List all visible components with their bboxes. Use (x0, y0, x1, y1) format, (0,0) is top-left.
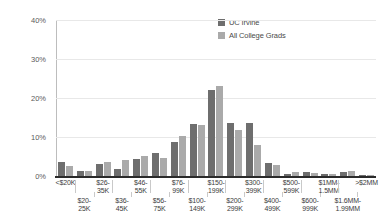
x-tick-label: $1MM-1.5MM (311, 179, 347, 195)
y-tick-label: 30% (10, 55, 46, 64)
bar-group (338, 20, 357, 176)
bar-group (188, 20, 207, 176)
bar-group (207, 20, 226, 176)
x-tick-label: $200-299K (217, 197, 253, 213)
bar-uc-irvine (265, 163, 272, 176)
x-tick-label: $20-25K (66, 197, 102, 213)
x-tick-label: $300-399K (236, 179, 272, 195)
x-axis-separator (357, 192, 358, 197)
x-tick-label: $1.6MM-1.99MM (330, 197, 366, 213)
bar-group (169, 20, 188, 176)
bar-all-college-grads (311, 173, 318, 177)
bar-group (56, 20, 75, 176)
bar-all-college-grads (198, 125, 205, 176)
bar-group (150, 20, 169, 176)
x-tick-label: $36-45K (104, 197, 140, 213)
bar-uc-irvine (284, 174, 291, 176)
y-tick-label: 40% (10, 16, 46, 25)
x-axis-separator (75, 180, 76, 193)
bar-all-college-grads (348, 171, 355, 176)
bar-uc-irvine (246, 123, 253, 176)
bar-all-college-grads (160, 158, 167, 176)
x-tick-label: $76-99K (160, 179, 196, 195)
bar-all-college-grads (235, 130, 242, 176)
bar-series-container (56, 20, 376, 176)
bar-all-college-grads (122, 160, 129, 176)
x-tick-label: $400-499K (255, 197, 291, 213)
x-tick-label: $600-999K (292, 197, 328, 213)
x-axis-separator (338, 180, 339, 193)
x-axis-separator (150, 180, 151, 193)
bar-all-college-grads (85, 171, 92, 176)
bar-group (94, 20, 113, 176)
bar-group (263, 20, 282, 176)
bar-all-college-grads (329, 174, 336, 176)
bar-uc-irvine (190, 124, 197, 176)
x-axis-line (55, 176, 376, 178)
bar-group (357, 20, 376, 176)
bar-all-college-grads (179, 136, 186, 176)
x-axis-separator (112, 180, 113, 193)
bar-group (282, 20, 301, 176)
y-tick-label: 10% (10, 133, 46, 142)
x-tick-label: <$20K (48, 179, 84, 187)
bar-uc-irvine (96, 164, 103, 176)
x-tick-label: $150-199K (198, 179, 234, 195)
plot-area: 0%10%20%30%40% (56, 20, 376, 176)
bar-all-college-grads (141, 156, 148, 176)
bar-uc-irvine (114, 169, 121, 176)
bar-uc-irvine (133, 159, 140, 176)
x-tick-label: $26-35K (85, 179, 121, 195)
x-tick-label: $100-149K (179, 197, 215, 213)
x-axis-separator (301, 180, 302, 193)
bar-uc-irvine (152, 153, 159, 176)
bar-group (244, 20, 263, 176)
bar-uc-irvine (171, 142, 178, 176)
income-distribution-chart: UC Irvine All College Grads 0%10%20%30%4… (0, 0, 382, 224)
x-axis-labels: <$20K$20-25K$26-35K$36-45K$46-55K$56-75K… (56, 179, 376, 224)
bar-all-college-grads (104, 162, 111, 176)
bar-uc-irvine (303, 172, 310, 176)
x-tick-label: $56-75K (142, 197, 178, 213)
bar-group (320, 20, 339, 176)
x-axis-separator (225, 180, 226, 193)
y-tick-label: 20% (10, 94, 46, 103)
bar-uc-irvine (340, 172, 347, 176)
bar-group (75, 20, 94, 176)
bar-uc-irvine (359, 175, 366, 176)
bar-all-college-grads (216, 86, 223, 176)
bar-uc-irvine (77, 171, 84, 176)
bar-group (131, 20, 150, 176)
x-tick-label: $46-55K (123, 179, 159, 195)
bar-uc-irvine (321, 174, 328, 176)
bar-all-college-grads (254, 145, 261, 176)
x-tick-label: $500-599K (273, 179, 309, 195)
x-tick-label: >$2MM (349, 179, 382, 187)
bar-uc-irvine (58, 162, 65, 176)
bar-all-college-grads (273, 165, 280, 176)
x-axis-separator (188, 180, 189, 193)
bar-group (301, 20, 320, 176)
x-axis-separator (263, 180, 264, 193)
bar-all-college-grads (367, 175, 374, 176)
bar-all-college-grads (292, 172, 299, 176)
bar-uc-irvine (208, 90, 215, 176)
bar-group (225, 20, 244, 176)
bar-uc-irvine (227, 123, 234, 176)
bar-group (112, 20, 131, 176)
bar-all-college-grads (66, 166, 73, 176)
y-tick-label: 0% (10, 172, 46, 181)
